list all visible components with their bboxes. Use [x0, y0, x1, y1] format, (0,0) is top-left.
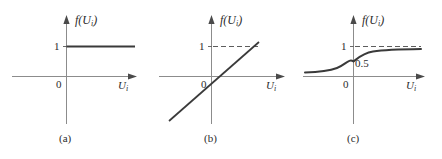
y-tick-label-one: 1: [199, 41, 205, 52]
y-axis-arrow-icon: [208, 15, 214, 24]
y-axis-label: f(Ui): [362, 14, 384, 26]
y-axis-label: f(Ui): [75, 14, 97, 26]
y-tick-label-one: 1: [54, 41, 60, 52]
x-axis-arrow-icon: [276, 73, 285, 79]
panel-a: f(Ui) Ui 1 0 (a): [0, 0, 147, 159]
x-axis-label: Ui: [266, 80, 276, 91]
y-tick-label-one: 1: [341, 41, 347, 52]
activation-functions-figure: f(Ui) Ui 1 0 (a) f(Ui) Ui 1 0 (b): [0, 0, 442, 159]
origin-label: 0: [201, 79, 207, 90]
origin-label: 0: [343, 79, 349, 90]
x-axis-label: Ui: [118, 80, 128, 91]
x-axis-arrow-icon: [416, 73, 425, 79]
linear-function-curve: [169, 42, 259, 121]
y-axis-arrow-icon: [63, 15, 69, 24]
y-axis-arrow-icon: [350, 15, 356, 24]
x-axis-arrow-icon: [128, 73, 137, 79]
panel-caption-c: (c): [347, 133, 359, 144]
panel-c: f(Ui) Ui 1 0.5 0 (c): [295, 0, 442, 159]
panel-b: f(Ui) Ui 1 0 (b): [147, 0, 294, 159]
y-axis-label: f(Ui): [220, 14, 242, 26]
panel-caption-a: (a): [59, 133, 71, 144]
half-value-label: 0.5: [355, 58, 369, 69]
panel-caption-b: (b): [204, 133, 217, 144]
origin-label: 0: [56, 79, 62, 90]
x-axis-label: Ui: [406, 80, 416, 91]
